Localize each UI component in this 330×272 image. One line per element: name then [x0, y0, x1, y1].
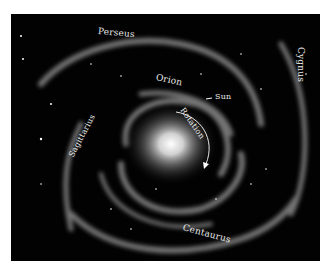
spiral-galaxy-graphic [11, 14, 320, 261]
sun-marker [206, 98, 212, 99]
label-sun: Sun [215, 92, 231, 101]
galaxy-image: Perseus Cygnus Orion Sun Sagittarius Rot… [11, 14, 320, 261]
label-cygnus: Cygnus [296, 47, 306, 82]
galactic-core [123, 102, 219, 186]
